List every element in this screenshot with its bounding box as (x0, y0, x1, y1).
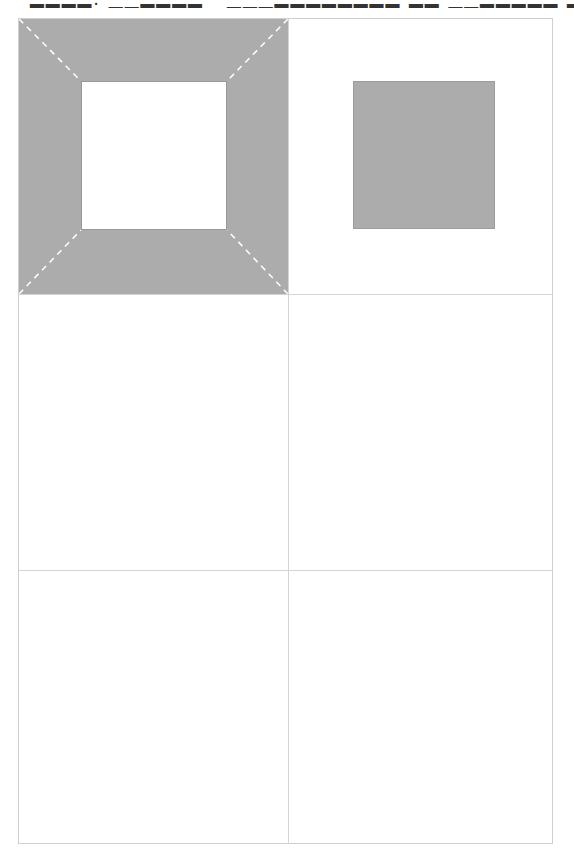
grid-row-divider-2 (19, 570, 552, 571)
grid-column-divider (288, 19, 289, 843)
clipped-header-text: ▂▂▂▂. ▁▁▂▂▂▂ · ▁▁▁▂▂▂▂▂▂▂▂ ▂▂ ▁▁▂▂▂▂▂ ▂▂… (0, 0, 574, 8)
diagram-grid (18, 18, 553, 844)
square-frame-shape (19, 19, 288, 294)
solid-gray-square (353, 81, 495, 229)
grid-row-divider-1 (19, 294, 552, 295)
frame-inner-hole (81, 81, 227, 230)
